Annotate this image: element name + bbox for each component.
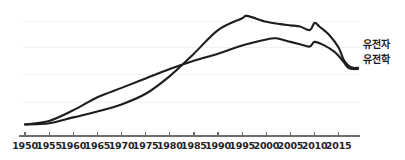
x-tick-label: 1970	[109, 140, 135, 151]
x-tick-label: 1975	[133, 140, 159, 151]
x-tick-label: 2015	[326, 140, 352, 151]
x-tick-label: 1960	[60, 140, 86, 151]
x-tick-label: 2000	[253, 140, 279, 151]
x-tick-label: 1995	[229, 140, 255, 151]
x-tick-label: 2010	[302, 140, 328, 151]
legend-label-gene: 유전자	[363, 39, 390, 51]
series-line-2	[25, 38, 358, 124]
x-tick-label: 1990	[205, 140, 231, 151]
x-tick-label: 1955	[36, 140, 62, 151]
line-chart: 1950195519601965197019751980198519901995…	[0, 0, 405, 160]
x-tick-label: 1985	[181, 140, 207, 151]
series-line-1	[25, 16, 358, 125]
chart-plot-area	[0, 0, 405, 160]
x-tick-label: 1965	[85, 140, 111, 151]
series-lines	[25, 16, 358, 125]
legend-label-genetics: 유전학	[363, 54, 390, 66]
x-tick-label: 1980	[157, 140, 183, 151]
x-tick-label: 2005	[278, 140, 304, 151]
x-tick-label: 1950	[12, 140, 38, 151]
x-axis	[19, 132, 360, 136]
